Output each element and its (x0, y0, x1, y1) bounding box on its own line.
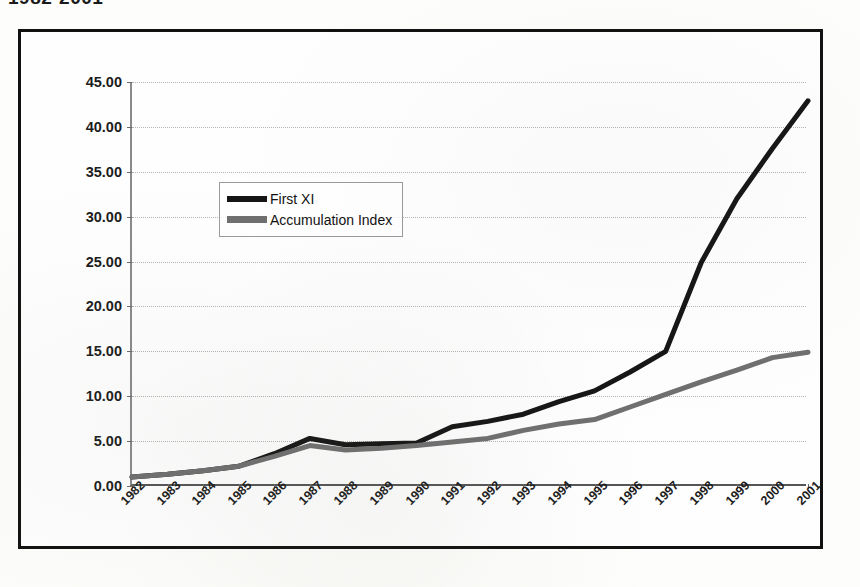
y-axis-tick-label: 35.00 (62, 164, 122, 180)
y-axis-tick-label: 30.00 (62, 209, 122, 225)
series-line (132, 101, 808, 477)
chart-frame: 0.005.0010.0015.0020.0025.0030.0035.0040… (18, 29, 823, 549)
y-axis-tick-label: 20.00 (62, 298, 122, 314)
y-axis-tick-label: 0.00 (62, 478, 122, 494)
chart-legend: First XIAccumulation Index (219, 182, 403, 237)
series-layer (132, 82, 808, 486)
y-axis-tick-label: 5.00 (62, 433, 122, 449)
series-line (132, 352, 808, 477)
y-axis-tick-label: 45.00 (62, 74, 122, 90)
plot-canvas (130, 82, 806, 486)
legend-swatch-accumulation-index-icon (227, 216, 267, 223)
y-axis-tick-label: 10.00 (62, 388, 122, 404)
legend-label: Accumulation Index (270, 212, 392, 228)
legend-swatch-first-xi-icon (227, 196, 267, 202)
legend-label: First XI (270, 191, 314, 207)
scanned-page: 1982-2001 0.005.0010.0015.0020.0025.0030… (0, 0, 860, 587)
chart-caption: 1982-2001 (8, 0, 103, 9)
x-axis-tick-label: 1982 (118, 478, 148, 508)
y-axis-tick-label: 25.00 (62, 254, 122, 270)
legend-item: First XI (227, 188, 392, 209)
plot-area: 0.005.0010.0015.0020.0025.0030.0035.0040… (21, 32, 820, 546)
y-axis-tick-label: 15.00 (62, 343, 122, 359)
y-axis-tick-label: 40.00 (62, 119, 122, 135)
legend-item: Accumulation Index (227, 209, 392, 230)
